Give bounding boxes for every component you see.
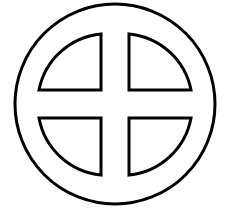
quadrant-bottom-right xyxy=(129,118,191,175)
sun-cross-symbol xyxy=(0,0,230,210)
outer-ring xyxy=(15,4,215,204)
quadrant-bottom-left xyxy=(39,118,101,175)
quadrant-top-left xyxy=(39,34,101,90)
quadrant-top-right xyxy=(129,34,191,90)
